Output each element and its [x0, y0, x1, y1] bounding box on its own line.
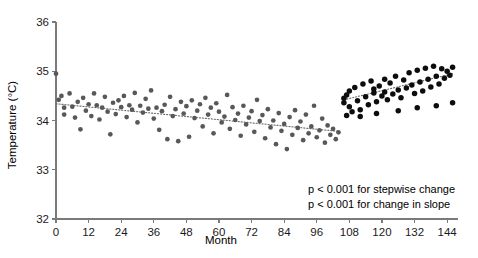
data-point	[141, 110, 146, 115]
data-point	[116, 98, 121, 103]
data-point	[97, 117, 102, 122]
y-tick-label: 35	[36, 65, 49, 77]
data-point	[374, 99, 380, 105]
data-point	[436, 81, 442, 87]
data-point	[395, 108, 401, 114]
data-point	[293, 108, 298, 113]
data-point	[268, 125, 273, 130]
data-point	[450, 100, 456, 106]
x-tick-label: 120	[372, 226, 391, 238]
data-point	[135, 120, 140, 125]
data-point	[282, 122, 287, 127]
data-point	[59, 94, 64, 99]
data-point	[450, 65, 456, 71]
data-point	[312, 103, 317, 108]
trend-lines	[56, 74, 453, 132]
x-tick-label: 24	[115, 226, 128, 238]
data-point	[415, 105, 421, 111]
data-point	[363, 94, 369, 100]
data-point	[146, 106, 151, 111]
data-point	[371, 86, 377, 92]
data-point	[203, 95, 208, 100]
data-point	[154, 105, 159, 110]
data-point	[415, 68, 421, 74]
data-point	[241, 103, 246, 108]
data-point	[357, 107, 363, 113]
data-point	[323, 140, 328, 145]
data-point	[143, 96, 148, 101]
data-point	[89, 114, 94, 119]
data-point	[211, 131, 216, 136]
data-point	[184, 104, 189, 109]
data-point	[105, 109, 110, 114]
data-point	[260, 113, 265, 118]
x-tick-label: 48	[180, 226, 193, 238]
data-point	[317, 128, 322, 133]
data-point	[54, 71, 59, 76]
data-point	[208, 105, 213, 110]
data-point	[127, 103, 132, 108]
data-point	[233, 118, 238, 123]
data-point	[304, 112, 309, 117]
data-point	[198, 102, 203, 107]
data-point	[431, 64, 437, 70]
data-point	[86, 102, 91, 107]
data-point	[222, 114, 227, 119]
data-point	[374, 111, 380, 117]
data-point	[62, 112, 67, 117]
data-point	[252, 129, 257, 134]
data-point	[349, 109, 355, 115]
data-point	[347, 104, 353, 110]
data-point	[189, 98, 194, 103]
data-point	[78, 127, 83, 132]
x-tick-label: 0	[53, 226, 59, 238]
x-tick-label: 12	[82, 226, 95, 238]
data-point	[425, 76, 431, 82]
x-tick-label: 36	[147, 226, 160, 238]
data-point	[366, 102, 372, 108]
data-point	[100, 105, 105, 110]
data-point	[214, 101, 219, 106]
x-tick-label: 96	[310, 226, 323, 238]
data-point	[151, 116, 156, 121]
data-point	[225, 93, 230, 98]
data-point	[328, 132, 333, 137]
data-point	[295, 126, 300, 131]
data-point	[368, 78, 374, 84]
data-point	[325, 123, 330, 128]
data-point	[192, 116, 197, 121]
data-point	[206, 112, 211, 117]
data-point	[132, 91, 137, 96]
data-point	[398, 95, 404, 101]
data-point	[279, 128, 284, 133]
y-tick-label: 32	[36, 213, 49, 225]
data-point	[130, 107, 135, 112]
data-point	[404, 85, 410, 91]
data-point	[390, 91, 396, 97]
data-point	[122, 94, 127, 99]
x-tick-label: 132	[405, 226, 424, 238]
data-point	[219, 120, 224, 125]
data-point	[70, 104, 75, 109]
data-point	[111, 100, 116, 105]
data-point	[165, 137, 170, 142]
data-point	[320, 116, 325, 121]
data-point	[92, 91, 97, 96]
data-point	[314, 135, 319, 140]
data-points	[54, 64, 456, 152]
data-point	[439, 66, 445, 72]
data-point	[401, 77, 407, 83]
data-point	[306, 131, 311, 136]
data-point	[257, 119, 262, 124]
data-point	[173, 107, 178, 112]
chart-figure: 323334353601224364860728496108120132144 …	[0, 0, 478, 258]
data-point	[263, 136, 268, 141]
data-point	[244, 122, 249, 127]
data-point	[333, 137, 338, 142]
data-point	[420, 88, 426, 94]
data-point	[287, 115, 292, 120]
data-point	[217, 109, 222, 114]
data-point	[113, 112, 118, 117]
data-point	[344, 113, 350, 119]
data-point	[94, 103, 99, 108]
